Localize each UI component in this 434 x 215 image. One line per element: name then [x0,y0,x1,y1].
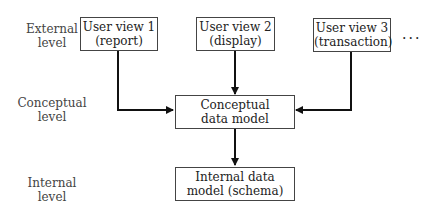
user-view-2-box: User view 2 (display) [196,17,275,51]
user-view-1-box: User view 1 (report) [80,17,158,51]
more-views-ellipsis: ... [402,26,421,42]
internal-data-model-box: Internal data model (schema) [175,167,295,201]
conceptual-level-label: Conceptual level [14,96,90,124]
internal-level-label: Internal level [22,176,82,204]
conceptual-data-model-box: Conceptual data model [175,95,295,129]
external-level-label: External level [22,22,82,50]
user-view-3-box: User view 3 (transaction) [313,18,391,52]
